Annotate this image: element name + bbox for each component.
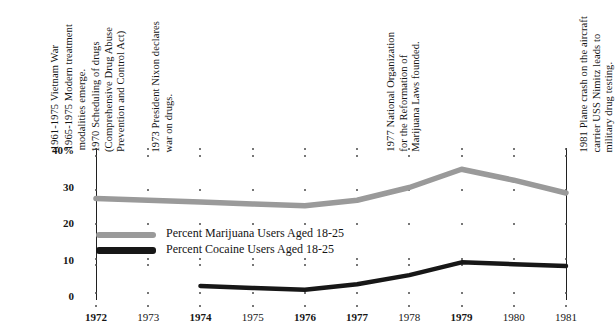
tick-dot [304, 258, 306, 260]
tick-dot [513, 292, 515, 294]
tick-dot [408, 258, 410, 260]
annotation-uss-nimitz-crash: 1981 Plane crash on the aircraft carrier… [578, 16, 616, 152]
x-tick-label: 1975 [230, 312, 276, 323]
tick-dot [461, 189, 463, 191]
tick-dot [199, 292, 201, 294]
tick-dot [199, 264, 201, 266]
tick-dot [199, 189, 201, 191]
tick-dot [356, 223, 358, 225]
tick-dot [565, 258, 567, 260]
y-tick-label: 30 [40, 182, 74, 193]
tick-dot [356, 189, 358, 191]
annotation-norml-founded: 1977 National Organization for the Refor… [385, 32, 423, 152]
tick-dot [356, 148, 358, 150]
tick-dot [513, 148, 515, 150]
tick-dot [95, 264, 97, 266]
x-tick-label: 1979 [439, 312, 485, 323]
tick-dot [304, 292, 306, 294]
tick-dot [95, 305, 97, 307]
tick-dot [565, 189, 567, 191]
series-line-marijuana [96, 169, 566, 206]
tick-dot [147, 189, 149, 191]
tick-dot [199, 148, 201, 150]
tick-dot [147, 305, 149, 307]
tick-dot [304, 148, 306, 150]
tick-dot [304, 223, 306, 225]
tick-dot [252, 258, 254, 260]
x-tick-label: 1981 [543, 312, 589, 323]
x-tick-label: 1972 [73, 312, 119, 323]
tick-dot [565, 223, 567, 225]
tick-dot [199, 305, 201, 307]
tick-dot [95, 258, 97, 260]
x-tick-label: 1976 [282, 312, 328, 323]
tick-dot [461, 264, 463, 266]
tick-dot [565, 155, 567, 157]
annotation-drug-scheduling: 1970 Scheduling of drugs (Comprehensive … [90, 27, 128, 152]
tick-dot [565, 264, 567, 266]
tick-dot [461, 305, 463, 307]
tick-dot [461, 258, 463, 260]
tick-dot [408, 189, 410, 191]
x-tick-label: 1980 [491, 312, 537, 323]
tick-dot [356, 305, 358, 307]
tick-dot [147, 155, 149, 157]
tick-dot [252, 148, 254, 150]
legend-label: Percent Marijuana Users Aged 18-25 [166, 226, 344, 240]
tick-dot [252, 223, 254, 225]
annotation-nixon-war-on-drugs: 1973 President Nixon declares war on dru… [150, 21, 175, 153]
tick-dot [95, 292, 97, 294]
tick-dot [252, 264, 254, 266]
annotation-vietnam-war: 1961-1975 Vietnam War [49, 45, 62, 150]
tick-dot [408, 223, 410, 225]
tick-dot [408, 264, 410, 266]
tick-dot [95, 148, 97, 150]
series-line-cocaine [200, 262, 566, 289]
tick-dot [513, 258, 515, 260]
tick-dot [408, 292, 410, 294]
y-tick-label: 0 [40, 291, 74, 302]
tick-dot [356, 292, 358, 294]
tick-dot [95, 223, 97, 225]
x-tick-label: 1973 [125, 312, 171, 323]
tick-dot [199, 223, 201, 225]
tick-dot [95, 155, 97, 157]
x-tick-label: 1978 [386, 312, 432, 323]
tick-dot [252, 292, 254, 294]
tick-dot [513, 305, 515, 307]
tick-dot [95, 189, 97, 191]
tick-dot [513, 223, 515, 225]
tick-dot [461, 292, 463, 294]
y-tick-label: 10 [40, 255, 74, 266]
tick-dot [147, 292, 149, 294]
y-tick-label: 40% [30, 145, 74, 156]
tick-dot [408, 155, 410, 157]
tick-dot [199, 258, 201, 260]
tick-dot [304, 189, 306, 191]
tick-dot [252, 155, 254, 157]
tick-dot [147, 264, 149, 266]
tick-dot [304, 155, 306, 157]
tick-dot [408, 305, 410, 307]
tick-dot [565, 148, 567, 150]
tick-dot [565, 305, 567, 307]
legend-label: Percent Cocaine Users Aged 18-25 [166, 242, 334, 256]
tick-dot [513, 264, 515, 266]
tick-dot [147, 223, 149, 225]
tick-dot [147, 148, 149, 150]
tick-dot [356, 155, 358, 157]
tick-dot [252, 189, 254, 191]
tick-dot [147, 258, 149, 260]
tick-dot [252, 305, 254, 307]
annotation-treatment-modalities: 1965-1975 Modern treatment modalities em… [63, 24, 88, 150]
tick-dot [199, 155, 201, 157]
tick-dot [304, 305, 306, 307]
tick-dot [461, 148, 463, 150]
tick-dot [513, 189, 515, 191]
tick-dot [304, 264, 306, 266]
tick-dot [461, 155, 463, 157]
y-tick-label: 20 [40, 218, 74, 229]
legend-swatch-icon [96, 247, 156, 254]
tick-dot [565, 292, 567, 294]
